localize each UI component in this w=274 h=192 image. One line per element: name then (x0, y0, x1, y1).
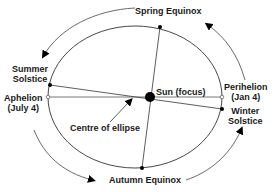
label-summer-solstice-line1: Summer (12, 64, 48, 74)
label-summer-solstice: Summer Solstice (12, 64, 48, 84)
label-perihelion: Perihelion (Jan 4) (224, 82, 268, 102)
label-perihelion-line2: (Jan 4) (224, 92, 268, 102)
centre-pointer-arrow (110, 101, 130, 122)
label-spring-equinox: Spring Equinox (135, 6, 202, 16)
label-autumn-equinox: Autumn Equinox (109, 175, 181, 185)
winter-solstice-point (220, 107, 224, 111)
label-winter-solstice-line2: Solstice (228, 116, 263, 126)
label-winter-solstice: Winter Solstice (228, 106, 263, 126)
autumn-equinox-point (140, 166, 144, 170)
label-perihelion-line1: Perihelion (224, 82, 268, 92)
spring-equinox-point (158, 25, 162, 29)
label-aphelion: Aphelion (July 4) (4, 93, 43, 113)
label-winter-solstice-line1: Winter (228, 106, 263, 116)
label-aphelion-line1: Aphelion (4, 93, 43, 103)
label-centre-of-ellipse: Centre of ellipse (70, 123, 140, 133)
sun-icon (145, 92, 155, 102)
aphelion-point (46, 95, 50, 99)
arrow-bottom-right (186, 130, 241, 180)
summer-solstice-point (48, 83, 52, 87)
label-summer-solstice-line2: Solstice (12, 74, 48, 84)
arrow-top-right (208, 25, 245, 80)
arrow-top-left (44, 8, 135, 55)
label-sun: Sun (focus) (156, 87, 206, 97)
label-aphelion-line2: (July 4) (4, 103, 43, 113)
